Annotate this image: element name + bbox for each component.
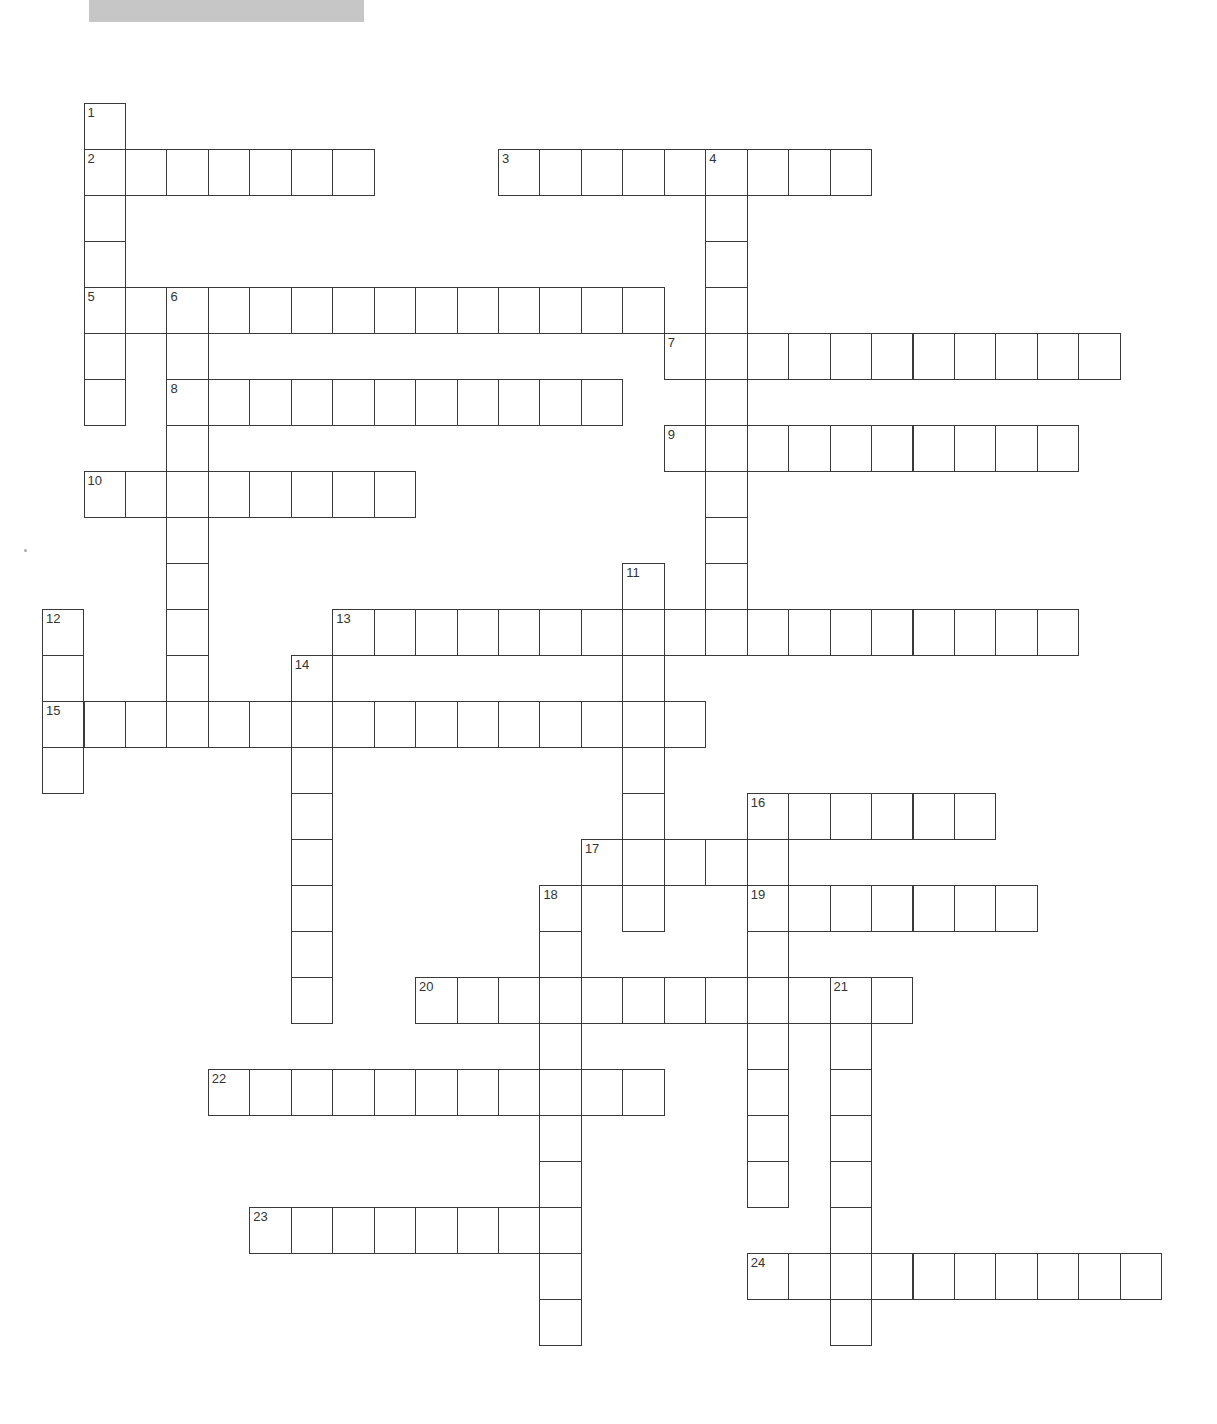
crossword-cell[interactable] [622,977,664,1024]
crossword-cell[interactable] [415,287,457,334]
crossword-cell[interactable] [830,1023,872,1070]
crossword-cell[interactable] [871,333,913,380]
crossword-cell[interactable] [788,149,830,196]
crossword-cell[interactable]: 15 [42,701,84,748]
crossword-cell[interactable] [622,1069,664,1116]
crossword-cell[interactable] [664,839,706,886]
crossword-cell[interactable]: 19 [747,885,789,932]
crossword-cell[interactable] [788,793,830,840]
crossword-cell[interactable] [954,609,996,656]
crossword-cell[interactable] [705,241,747,288]
crossword-cell[interactable]: 20 [415,977,457,1024]
crossword-cell[interactable] [788,1253,830,1300]
crossword-cell[interactable] [913,333,955,380]
crossword-cell[interactable] [415,701,457,748]
crossword-cell[interactable] [457,609,499,656]
crossword-cell[interactable] [539,1161,581,1208]
crossword-cell[interactable] [415,1069,457,1116]
crossword-cell[interactable] [622,839,664,886]
crossword-cell[interactable]: 10 [84,471,126,518]
crossword-cell[interactable] [208,149,250,196]
crossword-cell[interactable] [871,425,913,472]
crossword-cell[interactable] [622,885,664,932]
crossword-cell[interactable] [581,1069,623,1116]
crossword-cell[interactable] [954,425,996,472]
crossword-cell[interactable] [249,379,291,426]
crossword-cell[interactable] [208,471,250,518]
crossword-cell[interactable] [539,977,581,1024]
crossword-cell[interactable] [581,701,623,748]
crossword-cell[interactable] [249,471,291,518]
crossword-cell[interactable] [830,885,872,932]
crossword-cell[interactable] [995,425,1037,472]
crossword-cell[interactable] [457,287,499,334]
crossword-cell[interactable] [166,517,208,564]
crossword-cell[interactable] [374,471,416,518]
crossword-cell[interactable] [166,149,208,196]
crossword-cell[interactable] [830,1299,872,1346]
crossword-cell[interactable] [125,149,167,196]
crossword-cell[interactable] [498,1069,540,1116]
crossword-cell[interactable] [291,149,333,196]
crossword-cell[interactable] [622,287,664,334]
crossword-cell[interactable] [249,1069,291,1116]
crossword-cell[interactable] [830,149,872,196]
crossword-cell[interactable] [1120,1253,1162,1300]
crossword-cell[interactable] [332,701,374,748]
crossword-cell[interactable] [291,287,333,334]
crossword-cell[interactable] [830,1161,872,1208]
crossword-cell[interactable] [1037,609,1079,656]
crossword-cell[interactable]: 3 [498,149,540,196]
crossword-cell[interactable] [747,1023,789,1070]
crossword-cell[interactable]: 18 [539,885,581,932]
crossword-cell[interactable] [871,885,913,932]
crossword-cell[interactable] [954,793,996,840]
crossword-cell[interactable] [830,1069,872,1116]
crossword-cell[interactable]: 2 [84,149,126,196]
crossword-cell[interactable] [622,701,664,748]
crossword-cell[interactable] [747,333,789,380]
crossword-cell[interactable] [539,1253,581,1300]
crossword-cell[interactable] [498,379,540,426]
crossword-cell[interactable] [830,1207,872,1254]
crossword-cell[interactable] [539,931,581,978]
crossword-cell[interactable] [332,287,374,334]
crossword-cell[interactable] [42,655,84,702]
crossword-cell[interactable] [747,977,789,1024]
crossword-cell[interactable] [539,1069,581,1116]
crossword-cell[interactable] [830,1253,872,1300]
crossword-cell[interactable] [913,793,955,840]
crossword-cell[interactable] [374,287,416,334]
crossword-cell[interactable] [291,1069,333,1116]
crossword-cell[interactable] [374,1069,416,1116]
crossword-cell[interactable] [84,333,126,380]
crossword-cell[interactable] [498,701,540,748]
crossword-cell[interactable] [705,609,747,656]
crossword-cell[interactable] [291,885,333,932]
crossword-cell[interactable] [457,977,499,1024]
crossword-cell[interactable] [871,977,913,1024]
crossword-cell[interactable] [705,379,747,426]
crossword-cell[interactable] [84,701,126,748]
crossword-cell[interactable] [332,149,374,196]
crossword-cell[interactable] [664,701,706,748]
crossword-cell[interactable] [995,885,1037,932]
crossword-cell[interactable] [705,839,747,886]
crossword-cell[interactable] [581,977,623,1024]
crossword-cell[interactable] [125,471,167,518]
crossword-cell[interactable]: 11 [622,563,664,610]
crossword-cell[interactable]: 6 [166,287,208,334]
crossword-cell[interactable] [457,1207,499,1254]
crossword-cell[interactable] [747,425,789,472]
crossword-cell[interactable] [788,977,830,1024]
crossword-cell[interactable] [954,333,996,380]
crossword-cell[interactable] [871,793,913,840]
crossword-cell[interactable] [84,379,126,426]
crossword-cell[interactable] [539,287,581,334]
crossword-cell[interactable] [830,609,872,656]
crossword-cell[interactable] [208,379,250,426]
crossword-cell[interactable] [747,1069,789,1116]
crossword-cell[interactable] [291,701,333,748]
crossword-cell[interactable]: 14 [291,655,333,702]
crossword-cell[interactable] [166,425,208,472]
